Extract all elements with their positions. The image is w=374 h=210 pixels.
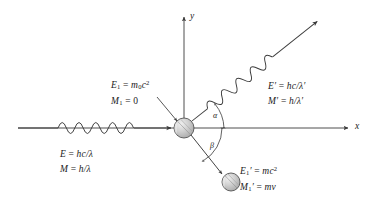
incident-momentum-equals: = xyxy=(68,164,79,174)
scattered-momentum-label: M′=h/λ′ xyxy=(268,94,306,109)
target-energy-exponent: 2 xyxy=(146,79,150,86)
incident-photon-labels: E=hc/λ M=h/λ xyxy=(60,147,93,177)
x-axis-label: x xyxy=(355,121,359,131)
recoil-momentum-equals: = xyxy=(254,182,265,192)
target-momentum-equals: = xyxy=(123,96,134,106)
target-momentum-label: M1=0 xyxy=(111,94,150,110)
incident-momentum-value: h/λ xyxy=(79,164,91,174)
scattered-energy-equals: = xyxy=(276,81,287,91)
incident-energy-value: hc/λ xyxy=(77,149,94,159)
target-energy-subscript: 1 xyxy=(117,83,121,90)
recoil-energy-label: E1′=mc2 xyxy=(240,162,277,180)
recoil-momentum-value: mv xyxy=(264,182,275,192)
angle-label-alpha: α xyxy=(213,111,217,120)
target-energy-equals: = xyxy=(121,80,132,90)
scattered-momentum-symbol: M′ xyxy=(268,96,278,106)
angle-label-beta: β xyxy=(210,141,214,150)
recoil-electron xyxy=(222,173,240,191)
incident-energy-equals: = xyxy=(66,149,77,159)
target-momentum-symbol: M xyxy=(111,96,119,106)
recoil-momentum-symbol: M xyxy=(240,182,248,192)
recoil-momentum-label: M1′=mv xyxy=(240,180,277,196)
scattered-momentum-value: h/λ′ xyxy=(289,96,303,106)
target-energy-label: E1=m0c2 xyxy=(111,76,150,94)
y-axis-label: y xyxy=(190,11,194,21)
recoil-energy-value: mc xyxy=(262,166,273,176)
target-electron xyxy=(174,118,194,138)
target-electron-labels: E1=m0c2 M1=0 xyxy=(111,76,150,110)
incident-momentum-symbol: M xyxy=(60,164,68,174)
recoil-electron-labels: E1′=mc2 M1′=mv xyxy=(240,162,277,196)
scattered-photon-labels: E′=hc/λ′ M′=h/λ′ xyxy=(268,79,306,109)
recoil-energy-equals: = xyxy=(252,166,263,176)
scattered-energy-value: hc/λ′ xyxy=(287,81,306,91)
recoil-energy-exponent: 2 xyxy=(274,165,278,172)
incident-energy-label: E=hc/λ xyxy=(60,147,93,162)
compton-scattering-figure: y x α β E1=m0c2 M1=0 E=hc/λ M=h/λ E′=hc/… xyxy=(0,0,374,210)
recoil-electron-path xyxy=(191,135,222,174)
scattered-energy-label: E′=hc/λ′ xyxy=(268,79,306,94)
diagram-canvas xyxy=(0,0,374,210)
scattered-momentum-equals: = xyxy=(278,96,289,106)
incident-momentum-label: M=h/λ xyxy=(60,162,93,177)
target-label-leader-line xyxy=(157,97,177,121)
target-momentum-value: 0 xyxy=(133,96,138,106)
